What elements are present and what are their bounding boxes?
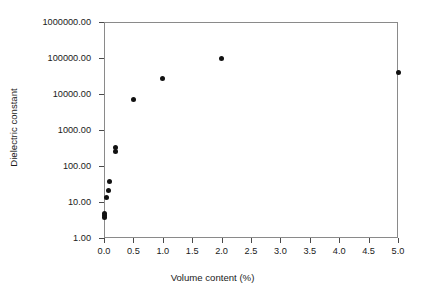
y-tick-label: 1000000.00	[0, 17, 95, 27]
y-axis-title: Dielectric constant	[8, 63, 19, 193]
y-tick-label: 10.00	[0, 197, 95, 207]
x-tick-mark	[192, 238, 193, 243]
x-tick-mark	[133, 238, 134, 243]
data-point	[102, 211, 107, 216]
x-tick-mark	[222, 238, 223, 243]
chart-figure: 1.0010.00100.001000.0010000.00100000.001…	[0, 0, 425, 297]
x-tick-mark	[251, 238, 252, 243]
data-point	[396, 70, 401, 75]
y-tick-mark	[99, 130, 104, 131]
y-tick-mark	[99, 94, 104, 95]
x-tick-mark	[369, 238, 370, 243]
x-tick-mark	[339, 238, 340, 243]
x-tick-mark	[280, 238, 281, 243]
y-tick-mark	[99, 58, 104, 59]
x-tick-mark	[104, 238, 105, 243]
y-tick-mark	[99, 22, 104, 23]
x-tick-mark	[310, 238, 311, 243]
data-point	[131, 97, 136, 102]
y-tick-mark	[99, 202, 104, 203]
x-axis-title: Volume content (%)	[0, 272, 425, 283]
data-point	[106, 188, 111, 193]
y-tick-mark	[99, 166, 104, 167]
x-tick-label: 5.0	[378, 246, 418, 256]
plot-area	[104, 22, 398, 238]
data-point	[219, 56, 224, 61]
y-tick-label: 1.00	[0, 233, 95, 243]
y-tick-label: 100000.00	[0, 53, 95, 63]
x-tick-mark	[398, 238, 399, 243]
x-tick-mark	[163, 238, 164, 243]
